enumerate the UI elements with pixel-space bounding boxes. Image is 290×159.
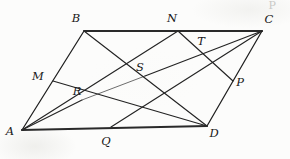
label-Q: Q [101, 134, 111, 148]
segment-R-to-S-faded [82, 76, 145, 100]
label-S: S [136, 60, 144, 74]
label-R: R [72, 84, 82, 98]
side-D-to-A [22, 126, 207, 130]
label-B: B [71, 11, 80, 25]
label-A: A [5, 124, 14, 138]
label-T: T [197, 34, 206, 48]
label-N: N [166, 11, 178, 25]
label-M: M [31, 69, 45, 83]
label-D: D [208, 126, 218, 140]
cevian-N-to-P [178, 31, 233, 81]
parallelogram-diagram: A B C D M N P Q R S T [0, 0, 290, 159]
side-C-to-D [207, 31, 262, 126]
geometry-figure: A B C D M N P Q R S T P [0, 0, 290, 159]
cevian-A-to-N [22, 31, 178, 130]
label-P: P [235, 75, 244, 89]
scan-artifact-glyph: P [269, 0, 276, 12]
label-C: C [265, 12, 274, 26]
